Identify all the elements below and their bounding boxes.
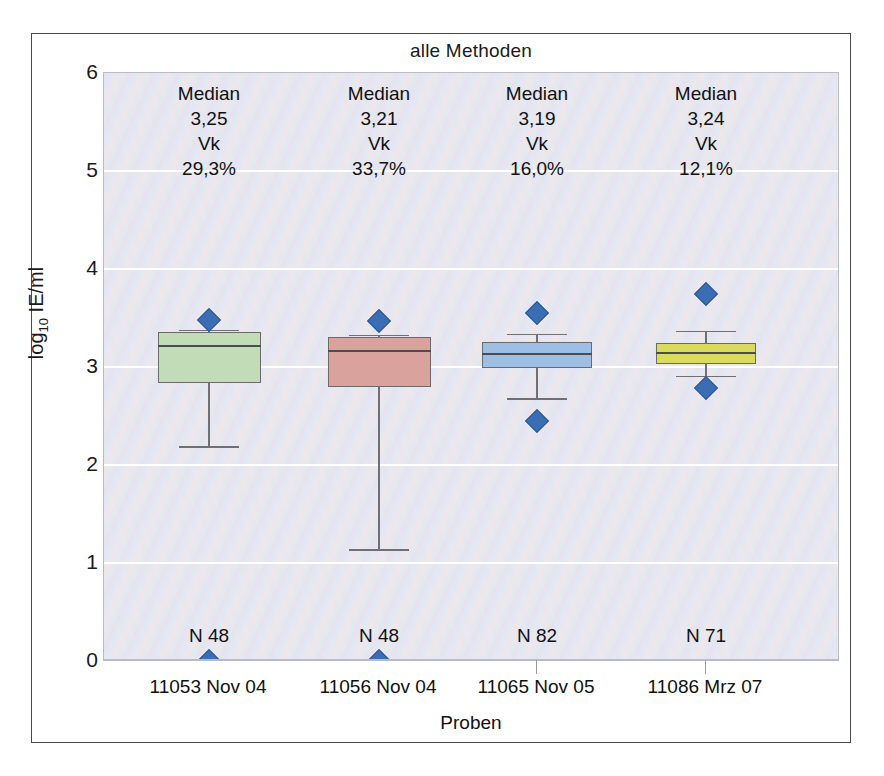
median-line-1	[158, 345, 261, 347]
annotation-group-1: Median3,25Vk29,3%	[124, 81, 294, 181]
vk-value-1: 29,3%	[124, 156, 294, 181]
median-value-4: 3,24	[621, 106, 791, 131]
x-tick-mark-3	[536, 660, 537, 674]
vk-value-4: 12,1%	[621, 156, 791, 181]
vk-value-3: 16,0%	[452, 156, 622, 181]
y-axis-title-subscript: 10	[36, 318, 51, 332]
box-2	[328, 337, 431, 387]
box-1	[158, 332, 261, 383]
y-axis-title: log10 IE/ml	[25, 213, 51, 413]
y-axis-title-base: log	[25, 332, 47, 359]
y-tick-label-0: 0	[58, 648, 98, 672]
gridline-y-1	[104, 562, 838, 564]
gridline-y-4	[104, 268, 838, 270]
x-axis-title: Proben	[103, 712, 839, 734]
median-line-3	[482, 353, 592, 355]
y-tick-label-3: 3	[58, 354, 98, 378]
whisker-cap-lower-1	[179, 446, 239, 447]
n-label-1: N 48	[149, 625, 269, 647]
median-label-3: Median	[452, 81, 622, 106]
vk-label-4: Vk	[621, 131, 791, 156]
plot-area: Median3,25Vk29,3%Median3,21Vk33,7%Median…	[103, 72, 839, 660]
annotation-group-3: Median3,19Vk16,0%	[452, 81, 622, 181]
vk-label-1: Vk	[124, 131, 294, 156]
vk-value-2: 33,7%	[294, 156, 464, 181]
gridline-y-2	[104, 464, 838, 466]
figure-canvas: alle Methoden 0123456 log10 IE/ml Median…	[0, 0, 884, 776]
whisker-cap-lower-2	[349, 549, 409, 550]
y-axis-tick-labels: 0123456	[50, 72, 98, 660]
y-tick-label-6: 6	[58, 60, 98, 84]
x-tick-label-3: 11065 Nov 05	[441, 676, 631, 698]
x-tick-label-4: 11086 Mrz 07	[610, 676, 800, 698]
x-axis-line	[103, 660, 839, 661]
median-label-2: Median	[294, 81, 464, 106]
median-line-4	[656, 352, 756, 354]
n-label-4: N 71	[646, 625, 766, 647]
whisker-cap-upper-3	[507, 334, 567, 335]
n-label-2: N 48	[319, 625, 439, 647]
x-tick-label-1: 11053 Nov 04	[113, 676, 303, 698]
whisker-cap-upper-4	[676, 331, 736, 332]
median-label-1: Median	[124, 81, 294, 106]
y-tick-label-1: 1	[58, 550, 98, 574]
annotation-group-4: Median3,24Vk12,1%	[621, 81, 791, 181]
y-axis-title-rest: IE/ml	[25, 267, 47, 318]
median-value-3: 3,19	[452, 106, 622, 131]
median-label-4: Median	[621, 81, 791, 106]
median-value-1: 3,25	[124, 106, 294, 131]
y-tick-label-5: 5	[58, 158, 98, 182]
median-value-2: 3,21	[294, 106, 464, 131]
median-line-2	[328, 350, 431, 352]
n-label-3: N 82	[477, 625, 597, 647]
y-tick-label-2: 2	[58, 452, 98, 476]
chart-title: alle Methoden	[103, 40, 839, 62]
whisker-cap-lower-3	[507, 398, 567, 399]
x-tick-mark-4	[705, 660, 706, 674]
annotation-group-2: Median3,21Vk33,7%	[294, 81, 464, 181]
vk-label-2: Vk	[294, 131, 464, 156]
vk-label-3: Vk	[452, 131, 622, 156]
y-tick-label-4: 4	[58, 256, 98, 280]
